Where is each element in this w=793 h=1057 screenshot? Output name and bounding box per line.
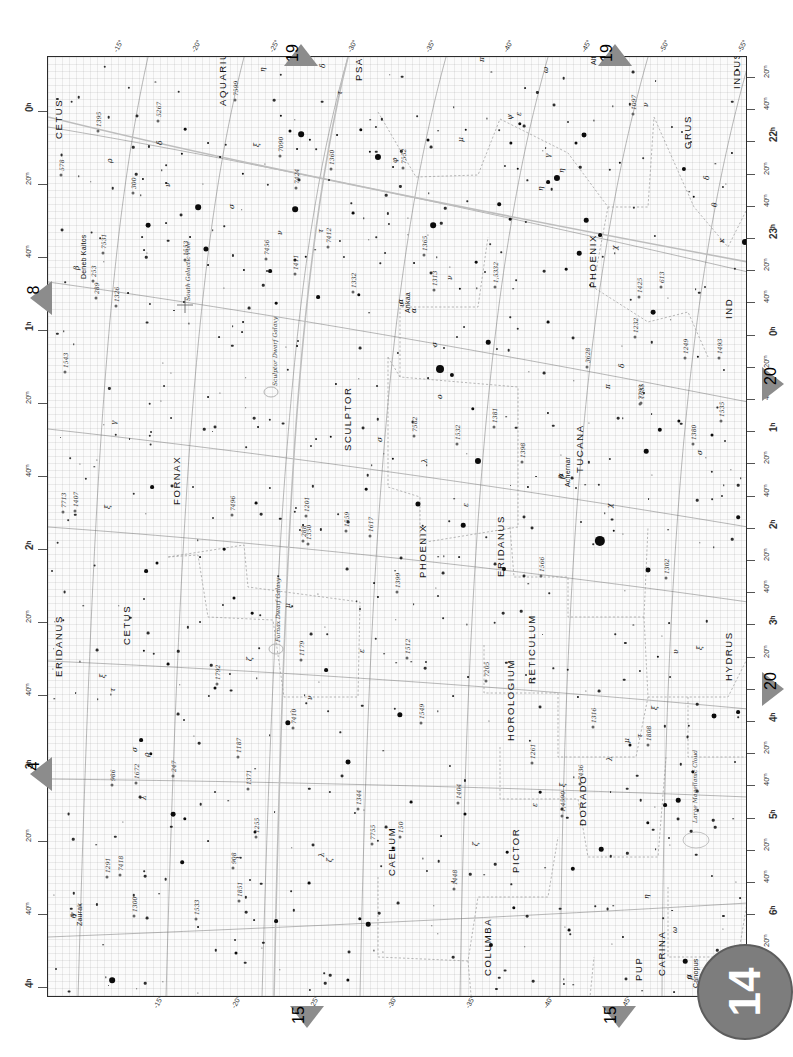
constellation-label: ERIDANUS xyxy=(495,515,506,577)
catalog-object-marker xyxy=(493,426,496,429)
greek-designation-label: θ xyxy=(69,913,78,918)
catalog-number-label: 1201 xyxy=(303,496,310,511)
catalog-object-marker xyxy=(304,514,307,517)
star-dot xyxy=(148,403,151,406)
adjacent-chart-marker-8[interactable]: 8 xyxy=(30,281,39,299)
catalog-number-label: 1249 xyxy=(682,338,689,353)
large-magellanic-cloud-glyph xyxy=(683,832,709,848)
catalog-object-marker xyxy=(665,576,668,579)
greek-designation-label: ν xyxy=(445,275,454,280)
star-dot xyxy=(146,223,151,228)
ra-tick-right: 20ᵐ xyxy=(762,452,771,465)
catalog-object-marker xyxy=(106,875,109,878)
star-dot xyxy=(410,661,412,663)
star-dot xyxy=(212,431,214,433)
star-chart-page: CETUSAQUARIUSPSAGRUSINDUSPHOENIXINDSCULP… xyxy=(0,0,793,1057)
star-dot xyxy=(207,396,209,398)
adjacent-chart-number: 19 xyxy=(284,44,302,62)
catalog-object-marker xyxy=(156,119,159,122)
star-dot xyxy=(676,798,681,803)
catalog-number-label: 1404 xyxy=(455,784,462,799)
star-dot xyxy=(197,539,199,541)
greek-designation-label: φ xyxy=(390,158,399,163)
sculptor-dwarf-galaxy-glyph xyxy=(264,387,278,397)
catalog-object-marker xyxy=(578,782,581,785)
greek-designation-label: δ xyxy=(155,140,164,145)
greek-designation-label: π xyxy=(477,57,486,62)
constellation-label: AQUARIUS xyxy=(217,56,228,106)
declination-tick-top: -50° xyxy=(658,39,670,54)
star-dot xyxy=(341,774,344,777)
star-dot xyxy=(441,835,443,837)
ra-tick-left: 40ᵐ xyxy=(24,245,33,258)
star-dot xyxy=(459,556,461,558)
catalog-number-label: 7531 xyxy=(100,234,107,249)
catalog-object-marker xyxy=(405,657,408,660)
ra-tick-mark-right xyxy=(747,592,755,593)
star-dot xyxy=(67,519,69,521)
greek-designation-label: μ xyxy=(456,137,465,142)
adjacent-chart-marker-15[interactable]: 15 xyxy=(290,1006,308,1024)
star-dot xyxy=(520,610,523,613)
constellation-label: CAELUM xyxy=(386,827,397,876)
greek-designation-label: ζ xyxy=(325,858,334,862)
catalog-number-label: 1,5332 xyxy=(492,262,499,283)
catalog-number-label: 1326 xyxy=(113,287,120,302)
ra-tick-right: 20ᵐ xyxy=(762,742,771,755)
star-dot xyxy=(526,915,529,918)
star-dot xyxy=(542,634,544,636)
ra-tick-mark-right xyxy=(747,302,755,303)
star-dot xyxy=(453,498,455,500)
named-star-label: Achernar xyxy=(564,457,571,487)
adjacent-chart-marker-19[interactable]: 19 xyxy=(284,44,302,62)
greek-designation-label: τ xyxy=(108,688,117,692)
ra-tick-left: 40ᵐ xyxy=(24,464,33,477)
adjacent-chart-marker-15[interactable]: 15 xyxy=(602,1006,620,1024)
star-dot xyxy=(199,556,201,558)
adjacent-chart-marker-4[interactable]: 4 xyxy=(30,757,39,775)
star-dot xyxy=(624,978,627,981)
star-dot xyxy=(723,485,725,487)
catalog-number-label: 7418 xyxy=(117,856,124,871)
greek-designation-label: ρ xyxy=(105,159,114,163)
catalog-object-marker xyxy=(135,782,138,785)
star-dot xyxy=(118,605,120,607)
greek-designation-label: ν xyxy=(305,695,314,700)
adjacent-chart-marker-19[interactable]: 19 xyxy=(598,44,616,62)
catalog-object-marker xyxy=(457,802,460,805)
catalog-object-marker xyxy=(74,509,77,512)
star-dot xyxy=(260,615,262,617)
ra-tick-right: 23ʰ xyxy=(768,224,779,239)
ra-tick-right: 22ʰ xyxy=(768,128,779,143)
star-dot xyxy=(257,426,259,428)
star-dot xyxy=(369,119,371,121)
ra-tick-mark-right xyxy=(747,882,755,883)
star-dot xyxy=(593,543,595,545)
star-dot xyxy=(671,910,673,912)
ra-tick-mark-left xyxy=(38,476,47,477)
catalog-number-label: 253 xyxy=(90,266,97,277)
catalog-number-label: 1179 xyxy=(298,641,305,656)
star-dot xyxy=(548,592,550,594)
catalog-object-marker xyxy=(232,867,235,870)
star-dot xyxy=(731,538,734,541)
star-dot xyxy=(690,830,693,833)
star-dot xyxy=(70,907,73,910)
star-dot xyxy=(688,191,690,193)
adjacent-chart-marker-20[interactable]: 20 xyxy=(762,367,780,385)
constellation-label: SCULPTOR xyxy=(342,387,353,451)
star-dot xyxy=(219,156,221,158)
catalog-number-label: 1381 xyxy=(491,408,498,423)
constellation-label: PHOENIX xyxy=(417,524,428,578)
catalog-object-marker xyxy=(238,900,241,903)
adjacent-chart-marker-20[interactable]: 20 xyxy=(762,672,780,690)
ra-tick-right: 20ᵐ xyxy=(762,259,771,272)
star-dot xyxy=(413,603,415,605)
greek-designation-label: δ xyxy=(702,175,711,180)
star-dot xyxy=(146,916,149,919)
star-dot xyxy=(249,879,251,881)
ra-tick-mark-right xyxy=(747,77,755,78)
star-dot xyxy=(75,692,77,694)
catalog-number-label: 7456 xyxy=(263,240,270,255)
greek-designation-label: σ xyxy=(695,450,704,455)
